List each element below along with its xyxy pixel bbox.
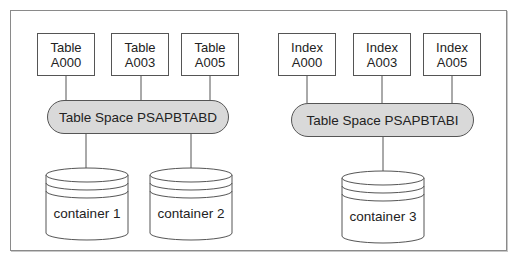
table-a003-box: Table A003	[111, 33, 169, 76]
object-type: Table	[124, 40, 155, 55]
table-a000-box: Table A000	[37, 33, 95, 76]
container-2-label: container 2	[150, 206, 232, 221]
tablespace-diagram: Table A000 Table A003 Table A005 Table S…	[0, 0, 512, 280]
object-name: A000	[292, 55, 322, 70]
object-type: Index	[291, 40, 323, 55]
object-type: Table	[50, 40, 81, 55]
index-a003-box: Index A003	[353, 33, 411, 76]
tablespace-label: Table Space PSAPBTABD	[59, 110, 217, 125]
index-a005-box: Index A005	[423, 33, 481, 76]
container-3-cylinder-icon	[342, 171, 424, 243]
object-name: A003	[125, 55, 155, 70]
index-a000-box: Index A000	[278, 33, 336, 76]
tablespace-psapbtabi: Table Space PSAPBTABI	[291, 103, 474, 137]
object-type: Index	[366, 40, 398, 55]
object-type: Index	[436, 40, 468, 55]
container-2-cylinder-icon	[150, 168, 232, 240]
container-1-cylinder-icon	[46, 168, 128, 240]
object-name: A005	[437, 55, 467, 70]
object-name: A005	[195, 55, 225, 70]
object-name: A000	[51, 55, 81, 70]
object-type: Table	[194, 40, 225, 55]
object-name: A003	[367, 55, 397, 70]
table-a005-box: Table A005	[181, 33, 239, 76]
tablespace-psapbtabd: Table Space PSAPBTABD	[47, 100, 229, 134]
container-1-label: container 1	[46, 206, 128, 221]
container-3-label: container 3	[342, 209, 424, 224]
tablespace-label: Table Space PSAPBTABI	[306, 113, 458, 128]
